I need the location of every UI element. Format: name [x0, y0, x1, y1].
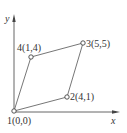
node-1 — [12, 109, 16, 113]
edge-4-1 — [14, 57, 31, 111]
node-label-4: 4(1,4) — [17, 42, 41, 54]
node-label-3: 3(5,5) — [86, 38, 110, 50]
x-axis-arrow-icon — [112, 110, 120, 113]
node-label-2: 2(4,1) — [70, 91, 94, 103]
x-axis-label: x — [110, 115, 116, 126]
node-4 — [29, 55, 33, 59]
edge-2-3 — [67, 43, 83, 97]
edge-1-2 — [14, 97, 67, 111]
diagram-canvas: y x 1(0,0) 2(4,1) 3(5,5) 4(1,4) — [0, 0, 127, 133]
y-axis-label: y — [4, 13, 10, 24]
node-2 — [65, 95, 69, 99]
node-3 — [81, 41, 85, 45]
node-label-1: 1(0,0) — [7, 115, 31, 127]
y-axis-arrow-icon — [12, 14, 15, 22]
